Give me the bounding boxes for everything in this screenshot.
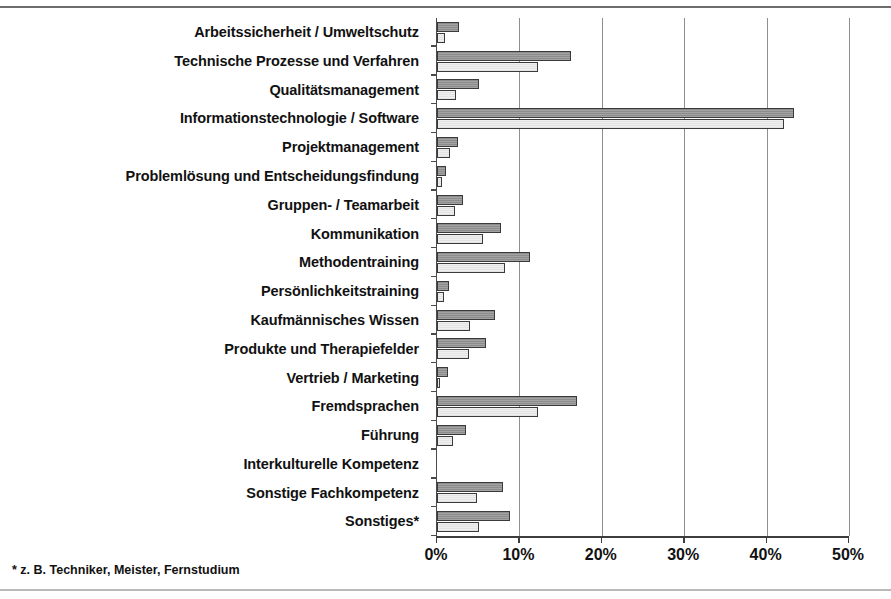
bar-series-a xyxy=(437,51,571,61)
x-tick xyxy=(683,536,684,543)
bar-row xyxy=(437,363,849,392)
bar-series-b xyxy=(437,263,505,273)
category-label: Problemlösung und Entscheidungsfindung xyxy=(0,162,428,191)
x-tick xyxy=(601,536,602,543)
plot-area xyxy=(436,18,849,536)
category-label: Produkte und Therapiefelder xyxy=(0,335,428,364)
bottom-rule xyxy=(0,589,891,591)
bar-series-b xyxy=(437,90,456,100)
x-tick-label: 20% xyxy=(585,546,617,564)
bar-series-b xyxy=(437,234,483,244)
x-tick-label: 30% xyxy=(667,546,699,564)
x-tick xyxy=(436,536,437,543)
bar-series-a xyxy=(437,511,510,521)
bar-series-b xyxy=(437,177,442,187)
category-label: Qualitätsmanagement xyxy=(0,76,428,105)
bar-series-b xyxy=(437,493,477,503)
x-tick xyxy=(518,536,519,543)
bar-series-b xyxy=(437,33,445,43)
bar-series-b xyxy=(437,349,469,359)
bar-series-a xyxy=(437,367,448,377)
bar-series-b xyxy=(437,62,538,72)
bar-row xyxy=(437,18,849,47)
bar-row xyxy=(437,421,849,450)
bar-row xyxy=(437,335,849,364)
bar-series-a xyxy=(437,223,501,233)
plot-wrapper: Arbeitssicherheit / UmweltschutzTechnisc… xyxy=(0,18,891,538)
x-tick-label: 0% xyxy=(424,546,447,564)
category-label: Kommunikation xyxy=(0,219,428,248)
bar-row xyxy=(437,277,849,306)
x-axis-line xyxy=(436,536,849,538)
bar-rows xyxy=(437,18,849,536)
bar-row xyxy=(437,248,849,277)
bar-row xyxy=(437,162,849,191)
category-label: Sonstiges* xyxy=(0,507,428,536)
bar-series-b xyxy=(437,321,470,331)
bar-row xyxy=(437,76,849,105)
category-label: Interkulturelle Kompetenz xyxy=(0,450,428,479)
bar-series-a xyxy=(437,22,459,32)
bar-row xyxy=(437,191,849,220)
bar-series-a xyxy=(437,137,458,147)
bar-series-b xyxy=(437,378,440,388)
x-tick xyxy=(848,536,849,543)
footnote: * z. B. Techniker, Meister, Fernstudium xyxy=(12,563,240,577)
bar-series-b xyxy=(437,407,538,417)
category-label: Methodentraining xyxy=(0,248,428,277)
category-label: Sonstige Fachkompetenz xyxy=(0,479,428,508)
bar-series-b xyxy=(437,119,784,129)
bar-row xyxy=(437,392,849,421)
category-label: Vertrieb / Marketing xyxy=(0,363,428,392)
bar-series-a xyxy=(437,396,577,406)
top-rule xyxy=(0,6,891,8)
category-label: Projektmanagement xyxy=(0,133,428,162)
category-label: Arbeitssicherheit / Umweltschutz xyxy=(0,18,428,47)
bar-row xyxy=(437,507,849,536)
x-tick-label: 40% xyxy=(750,546,782,564)
x-tick xyxy=(766,536,767,543)
bar-series-a xyxy=(437,252,530,262)
bar-row xyxy=(437,450,849,479)
category-label: Informationstechnologie / Software xyxy=(0,104,428,133)
bar-row xyxy=(437,306,849,335)
bar-series-a xyxy=(437,310,495,320)
bar-series-b xyxy=(437,522,479,532)
category-axis-labels: Arbeitssicherheit / UmweltschutzTechnisc… xyxy=(0,18,428,536)
category-label: Gruppen- / Teamarbeit xyxy=(0,191,428,220)
category-label: Kaufmännisches Wissen xyxy=(0,306,428,335)
category-label: Persönlichkeitstraining xyxy=(0,277,428,306)
bar-series-a xyxy=(437,338,486,348)
bar-series-b xyxy=(437,436,453,446)
chart-figure: Arbeitssicherheit / UmweltschutzTechnisc… xyxy=(0,0,891,599)
category-label: Technische Prozesse und Verfahren xyxy=(0,47,428,76)
bar-row xyxy=(437,104,849,133)
bar-series-a xyxy=(437,79,479,89)
category-label: Fremdsprachen xyxy=(0,392,428,421)
bar-series-b xyxy=(437,206,455,216)
bar-series-a xyxy=(437,166,446,176)
category-label: Führung xyxy=(0,421,428,450)
bar-series-b xyxy=(437,292,444,302)
gridline xyxy=(849,18,850,536)
bar-series-b xyxy=(437,148,450,158)
bar-row xyxy=(437,47,849,76)
bar-series-a xyxy=(437,281,449,291)
x-tick-label: 50% xyxy=(832,546,864,564)
bar-series-a xyxy=(437,425,466,435)
x-tick-label: 10% xyxy=(502,546,534,564)
bar-row xyxy=(437,219,849,248)
bar-series-a xyxy=(437,195,463,205)
bar-series-a xyxy=(437,482,503,492)
bar-row xyxy=(437,133,849,162)
bar-series-a xyxy=(437,108,794,118)
bar-row xyxy=(437,479,849,508)
